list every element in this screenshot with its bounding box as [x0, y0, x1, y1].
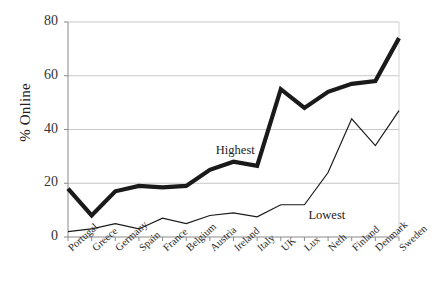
series-line-lowest [68, 111, 399, 232]
series-label-highest: Highest [216, 143, 255, 158]
y-tick-label: 60 [24, 67, 58, 83]
y-tick-label: 20 [24, 174, 58, 190]
series-label-lowest: Lowest [308, 208, 345, 223]
y-tick-label: 40 [24, 121, 58, 137]
series-line-highest [68, 38, 399, 215]
y-tick-label: 80 [24, 13, 58, 29]
chart-container: % Online Highest Lowest 020406080Portuga… [0, 0, 435, 289]
y-tick-label: 0 [24, 228, 58, 244]
